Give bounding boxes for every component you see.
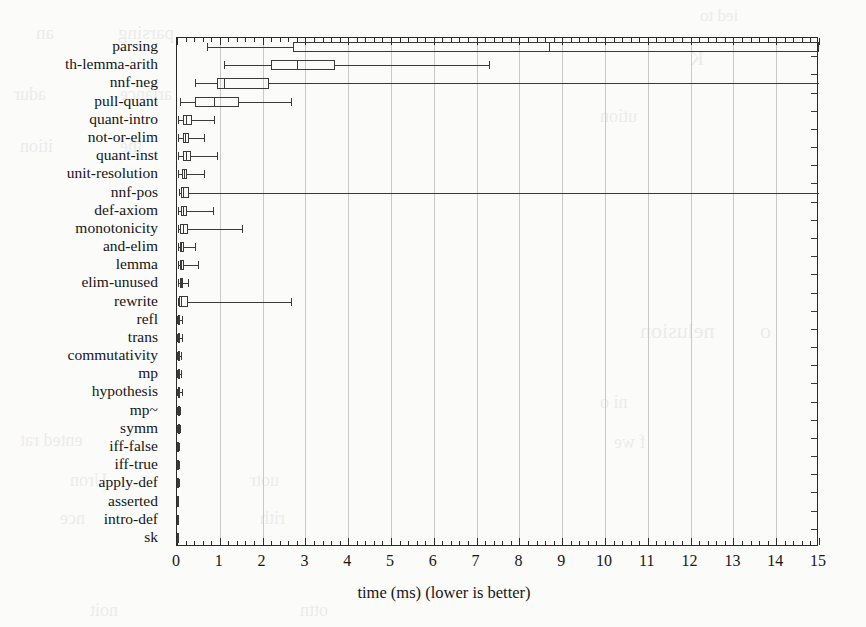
median-line — [177, 478, 178, 488]
whisker-cap-high — [182, 389, 183, 397]
whisker-cap-high — [204, 170, 205, 178]
boxplot-row — [177, 474, 817, 492]
whisker-cap-high — [213, 207, 214, 215]
whisker-cap-low — [178, 261, 179, 269]
y-axis-label: asserted — [108, 493, 158, 509]
whisker-cap-low — [179, 189, 180, 197]
boxplot-row — [177, 56, 817, 74]
whisker-high — [239, 102, 291, 103]
x-axis-tick-label: 9 — [557, 552, 565, 570]
median-line — [178, 369, 179, 379]
whisker-cap-high — [217, 152, 218, 160]
x-axis-tick-label: 6 — [429, 552, 437, 570]
y-axis-label: unit-resolution — [67, 165, 158, 181]
boxplot-row — [177, 402, 817, 420]
boxplot-row — [177, 74, 817, 92]
median-line — [186, 115, 187, 125]
y-axis-label: quant-intro — [89, 111, 158, 127]
boxplot-row — [177, 329, 817, 347]
axis-tick-major — [819, 538, 820, 545]
x-axis-tick-label: 1 — [215, 552, 223, 570]
median-line — [181, 296, 182, 306]
y-axis-label: th-lemma-arith — [65, 56, 158, 72]
boxplot-row — [177, 256, 817, 274]
median-line — [549, 42, 550, 52]
whisker-cap-low — [195, 79, 196, 87]
median-line — [178, 406, 179, 416]
y-axis-label: mp~ — [130, 402, 158, 418]
whisker-cap-low — [180, 98, 181, 106]
whisker-cap-high — [181, 370, 182, 378]
y-axis-label: nnf-neg — [110, 74, 158, 90]
whisker-cap-high — [489, 61, 490, 69]
median-line — [185, 133, 186, 143]
y-axis-label: not-or-elim — [88, 129, 158, 145]
whisker-cap-high — [198, 261, 199, 269]
whisker-cap-low — [178, 243, 179, 251]
boxplot-row — [177, 147, 817, 165]
box-iqr — [271, 60, 335, 70]
whisker-high — [269, 83, 819, 84]
y-axis-label: apply-def — [99, 474, 158, 490]
whisker-cap-high — [214, 116, 215, 124]
median-line — [214, 97, 215, 107]
whisker-high — [188, 229, 242, 230]
whisker-cap-high — [242, 225, 243, 233]
boxplot-row — [177, 238, 817, 256]
median-line — [186, 151, 187, 161]
boxplot-row — [177, 93, 817, 111]
whisker-low — [224, 65, 271, 66]
x-axis-tick-label: 12 — [682, 552, 698, 570]
whisker-cap-high — [195, 243, 196, 251]
whisker-cap-high — [291, 98, 292, 106]
x-axis-tick-label: 2 — [258, 552, 266, 570]
whisker-low — [207, 47, 293, 48]
x-axis-title: time (ms) (lower is better) — [0, 583, 866, 603]
median-line — [179, 387, 180, 397]
boxplot-row — [177, 165, 817, 183]
whisker-cap-low — [178, 207, 179, 215]
x-axis-tick-label: 3 — [300, 552, 308, 570]
whisker-cap-low — [207, 43, 208, 51]
whisker-low — [180, 102, 195, 103]
median-line — [183, 187, 184, 197]
whisker-high — [189, 138, 204, 139]
y-axis-labels: parsingth-lemma-arithnnf-negpull-quantqu… — [0, 37, 170, 546]
median-line — [177, 460, 178, 470]
x-axis-tick-label: 7 — [472, 552, 480, 570]
plot-area — [176, 37, 818, 546]
boxplot-row — [177, 293, 817, 311]
box-iqr — [183, 151, 192, 161]
whisker-high — [188, 302, 291, 303]
median-line — [181, 260, 182, 270]
boxplot-row — [177, 38, 817, 56]
boxplot-row — [177, 347, 817, 365]
whisker-cap-low — [178, 134, 179, 142]
boxplot-row — [177, 129, 817, 147]
whisker-cap-high — [188, 279, 189, 287]
median-line — [224, 78, 225, 88]
whisker-cap-high — [204, 134, 205, 142]
y-axis-label: pull-quant — [94, 93, 158, 109]
whisker-cap-high — [182, 316, 183, 324]
median-line — [183, 224, 184, 234]
y-axis-label: refl — [136, 311, 158, 327]
x-axis-tick-label: 5 — [386, 552, 394, 570]
median-line — [177, 442, 178, 452]
boxplot-row — [177, 511, 817, 529]
whisker-high — [187, 211, 212, 212]
whisker-cap-high — [182, 334, 183, 342]
median-line — [179, 333, 180, 343]
x-axis-tick-label: 4 — [343, 552, 351, 570]
median-line — [184, 169, 185, 179]
boxplot-row — [177, 311, 817, 329]
median-line — [177, 496, 178, 506]
median-line — [177, 533, 178, 543]
y-axis-label: sk — [144, 529, 158, 545]
whisker-cap-high — [291, 298, 292, 306]
boxplot-row — [177, 438, 817, 456]
boxplot-row — [177, 420, 817, 438]
y-axis-label: monotonicity — [75, 220, 158, 236]
x-axis-tick-label: 14 — [767, 552, 783, 570]
whisker-cap-low — [178, 152, 179, 160]
